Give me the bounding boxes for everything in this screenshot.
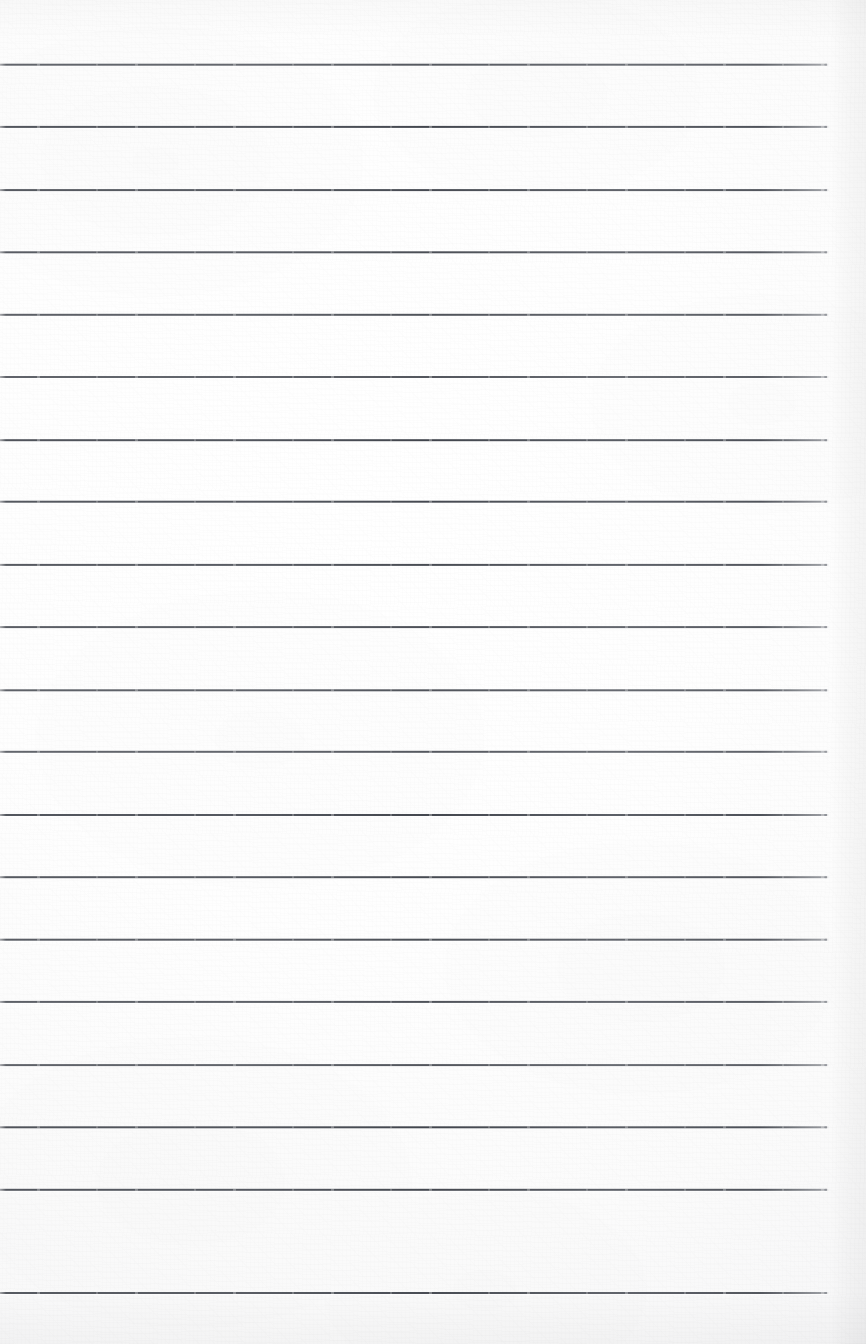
writing-area[interactable]	[0, 0, 866, 1344]
notebook-page	[0, 0, 866, 1344]
